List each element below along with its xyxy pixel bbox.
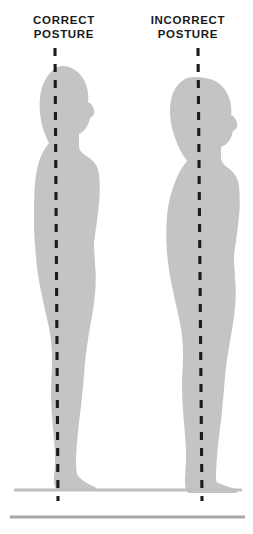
posture-comparison-figure: CORRECT POSTURE INCORRECT POSTURE [0, 0, 253, 534]
correct-posture-silhouette [34, 66, 100, 490]
incorrect-posture-silhouette [166, 77, 240, 493]
posture-illustration [0, 0, 253, 534]
